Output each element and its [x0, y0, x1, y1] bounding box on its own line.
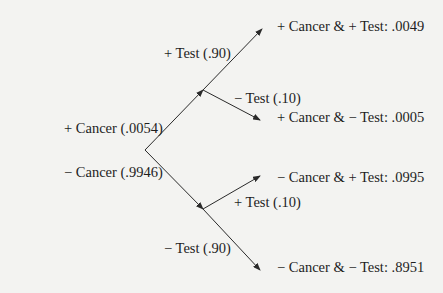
label-plus-test-lower: + Test (.10) [234, 194, 301, 210]
label-minus-cancer: − Cancer (.9946) [64, 164, 163, 180]
label-plus-test-upper: + Test (.90) [164, 45, 231, 61]
label-minus-test-upper: − Test (.10) [234, 90, 301, 106]
outcome-minus-cancer-minus-test: − Cancer & − Test: .8951 [277, 259, 424, 275]
outcome-minus-cancer-plus-test: − Cancer & + Test: .0995 [277, 169, 424, 185]
label-minus-test-lower: − Test (.90) [164, 240, 231, 256]
label-plus-cancer: + Cancer (.0054) [64, 120, 163, 136]
outcome-plus-cancer-plus-test: + Cancer & + Test: .0049 [277, 18, 424, 34]
outcome-plus-cancer-minus-test: + Cancer & − Test: .0005 [277, 109, 424, 125]
